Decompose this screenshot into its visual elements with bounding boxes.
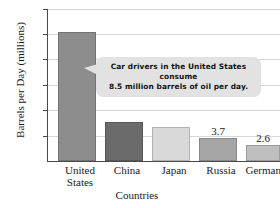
gridline-24 xyxy=(47,9,280,10)
tick-mark-8 xyxy=(43,110,48,111)
bar-china[interactable] xyxy=(105,122,143,161)
tick-mark-20 xyxy=(43,34,48,35)
x-category-label-line2: States xyxy=(45,176,115,188)
bar-chart: Barrels per Day (millions) 24 20 16 12 8… xyxy=(0,0,280,208)
x-category-label-germany: Germany xyxy=(231,164,280,176)
y-axis-title: Barrels per Day (millions) xyxy=(14,0,26,160)
bar-japan[interactable] xyxy=(152,127,190,161)
bar-united-states[interactable] xyxy=(58,32,96,161)
callout-line-2: 8.5 million barrels of oil per day. xyxy=(102,82,255,92)
callout-line-1: Car drivers in the United States consume xyxy=(102,62,255,82)
bar-germany[interactable] xyxy=(246,145,280,161)
bar-russia[interactable] xyxy=(199,138,237,161)
x-axis-title: Countries xyxy=(47,189,227,201)
x-category-label-line1: Germany xyxy=(231,164,280,176)
callout-annotation: Car drivers in the United States consume… xyxy=(96,57,261,97)
bar-value-germany: 2.6 xyxy=(244,133,280,144)
x-axis-line xyxy=(47,161,280,162)
tick-mark-16 xyxy=(43,59,48,60)
bar-value-russia: 3.7 xyxy=(199,126,237,137)
tick-mark-12 xyxy=(43,85,48,86)
tick-mark-4 xyxy=(43,136,48,137)
tick-mark-24 xyxy=(43,9,48,10)
